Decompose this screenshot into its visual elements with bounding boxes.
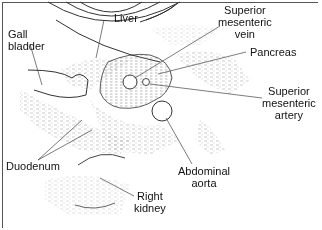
label-superior-mesenteric-vein: Superior mesenteric vein [218,4,272,40]
label-aorta-line1: Abdominal [178,165,230,177]
label-gall-bladder-line2: bladder [8,40,45,52]
label-duodenum: Duodenum [6,160,60,172]
label-abdominal-aorta: Abdominal aorta [178,165,230,189]
superior-mesenteric-vein [123,75,137,89]
label-sma-line3: artery [262,109,316,121]
label-right-kidney: Right kidney [134,190,166,214]
label-sma-line1: Superior [262,85,316,97]
anatomy-diagram: Liver Gall bladder Superior mesenteric v… [0,0,322,230]
label-smv-line1: Superior [218,4,272,16]
label-liver: Liver [114,12,138,24]
label-smv-line3: vein [218,28,272,40]
right-kidney-outline [78,154,125,165]
label-gall-bladder-line1: Gall [8,28,45,40]
label-kidney-line1: Right [134,190,166,202]
label-kidney-line2: kidney [134,202,166,214]
label-aorta-line2: aorta [178,177,230,189]
label-sma-line2: mesenteric [262,97,316,109]
label-gall-bladder: Gall bladder [8,28,45,52]
label-superior-mesenteric-artery: Superior mesenteric artery [262,85,316,121]
superior-mesenteric-artery [143,79,150,86]
label-smv-line2: mesenteric [218,16,272,28]
label-pancreas: Pancreas [250,46,296,58]
abdominal-aorta [152,101,172,121]
